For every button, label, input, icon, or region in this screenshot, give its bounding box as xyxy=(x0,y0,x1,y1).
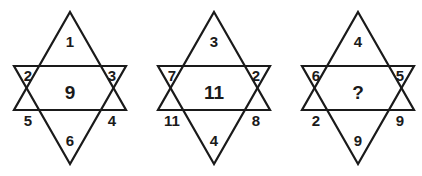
star-2-point-upper-left: 7 xyxy=(168,68,176,83)
star-3-center-value: ? xyxy=(352,83,364,102)
star-2-point-lower-left: 11 xyxy=(164,113,180,128)
star-2-point-upper-right: 2 xyxy=(252,68,260,83)
star-1-point-top: 1 xyxy=(66,34,74,49)
star-2-point-top: 3 xyxy=(210,34,218,49)
star-3-point-upper-left: 6 xyxy=(312,68,320,83)
star-1-center-value: 9 xyxy=(65,83,76,102)
star-3-point-lower-left: 2 xyxy=(312,113,320,128)
star-1-point-bottom: 6 xyxy=(66,133,74,148)
star-2-point-bottom: 4 xyxy=(210,133,218,148)
star-3-point-bottom: 9 xyxy=(354,133,362,148)
star-figure-1: 1 2 3 5 4 6 9 xyxy=(0,0,140,176)
star-figure-3: 4 6 5 2 9 9 ? xyxy=(288,0,422,176)
star-1-point-upper-right: 3 xyxy=(108,68,116,83)
star-2-center-value: 11 xyxy=(204,83,224,102)
star-3-point-upper-right: 5 xyxy=(396,68,404,83)
star-1-point-upper-left: 2 xyxy=(24,68,32,83)
star-3-point-top: 4 xyxy=(354,34,362,49)
star-2-point-lower-right: 8 xyxy=(252,113,260,128)
star-figure-2: 3 7 2 11 8 4 11 xyxy=(144,0,284,176)
star-1-point-lower-left: 5 xyxy=(24,113,32,128)
star-puzzle-board: 1 2 3 5 4 6 9 3 7 2 11 8 4 11 4 6 5 2 9 … xyxy=(0,0,422,176)
star-1-point-lower-right: 4 xyxy=(108,113,116,128)
star-3-point-lower-right: 9 xyxy=(396,113,404,128)
